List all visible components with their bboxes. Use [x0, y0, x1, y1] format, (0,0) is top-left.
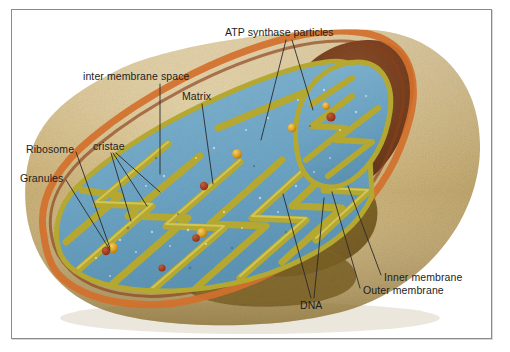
label-outer-membrane: Outer membrane	[363, 284, 444, 296]
granule	[232, 149, 242, 159]
label-atp-synthase-particles: ATP synthase particles	[225, 26, 334, 38]
label-cristae: cristae	[93, 140, 125, 152]
ribosome-particle	[326, 112, 335, 121]
label-ribosome: Ribosome	[26, 143, 74, 155]
label-matrix: Matrix	[182, 90, 211, 102]
label-granules: Granules	[20, 172, 63, 184]
label-inter-membrane-space: inter membrane space	[83, 70, 189, 82]
figure-root: ATP synthase particles inter membrane sp…	[0, 0, 510, 352]
ribosome-particle	[192, 234, 200, 242]
granule	[322, 102, 330, 110]
body-drop-shadow	[60, 302, 440, 334]
ribosome-particle	[158, 264, 165, 271]
mitochondrion-diagram	[0, 0, 510, 352]
ribosome-particle	[200, 182, 208, 190]
label-inner-membrane: Inner membrane	[384, 271, 462, 283]
granule	[288, 124, 297, 133]
label-dna: DNA	[300, 299, 322, 311]
